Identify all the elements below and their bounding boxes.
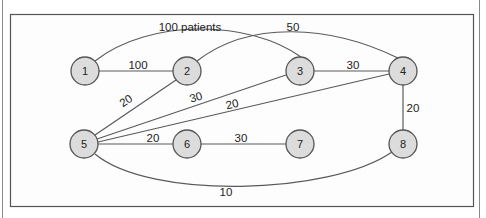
node-1: 1	[71, 57, 99, 85]
edge-label-5-6: 20	[147, 132, 160, 144]
edge-label-5-8: 10	[220, 186, 233, 198]
network-diagram: 100 patients 100 50 30 20 30 20 20 20 30…	[0, 0, 486, 218]
edge-label-1-3: 100 patients	[159, 21, 222, 33]
diagram-frame	[11, 15, 474, 207]
edge-label-6-7: 30	[235, 132, 248, 144]
node-3: 3	[286, 57, 314, 85]
node-label: 6	[184, 138, 190, 150]
node-label: 7	[297, 138, 303, 150]
node-4: 4	[389, 57, 417, 85]
node-6: 6	[173, 130, 201, 158]
node-label: 8	[400, 138, 406, 150]
edge-label-1-2: 100	[128, 59, 147, 71]
node-8: 8	[389, 130, 417, 158]
node-label: 5	[81, 138, 87, 150]
node-label: 1	[82, 65, 88, 77]
node-label: 2	[184, 65, 190, 77]
edge-label-2-4: 50	[287, 21, 300, 33]
edge-label-3-4: 30	[347, 59, 360, 71]
node-label: 3	[297, 65, 303, 77]
node-label: 4	[400, 65, 406, 77]
node-7: 7	[286, 130, 314, 158]
node-5: 5	[70, 130, 98, 158]
node-2: 2	[173, 57, 201, 85]
edge-label-4-8: 20	[407, 102, 420, 114]
